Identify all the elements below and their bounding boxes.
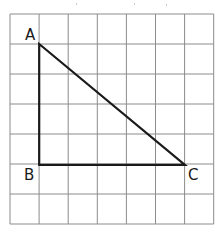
vertex-label-c: C (188, 166, 198, 184)
scan-speck (134, 3, 135, 5)
geometry-figure: ABC (0, 0, 222, 234)
scan-speck (76, 3, 77, 5)
scan-speck (166, 4, 167, 6)
vertex-label-b: B (24, 166, 34, 184)
figure-canvas: ABC (0, 0, 222, 234)
vertex-label-a: A (25, 26, 36, 44)
